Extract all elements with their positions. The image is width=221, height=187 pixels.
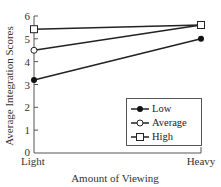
point-low-light: [31, 77, 37, 83]
legend-label-high: High: [152, 130, 173, 144]
point-low-heavy: [198, 36, 204, 42]
x-tick-heavy: Heavy: [187, 155, 216, 167]
open-circle-marker-icon: [131, 118, 149, 128]
y-tick-3: 3: [25, 79, 31, 91]
y-tick-4: 4: [25, 56, 31, 68]
chart-legend: Low Average High: [126, 98, 202, 146]
x-axis: Light Heavy: [21, 147, 216, 167]
y-tick-6: 6: [25, 10, 31, 22]
y-tick-1: 1: [25, 124, 31, 136]
y-tick-5: 5: [25, 33, 31, 45]
legend-item-low: Low: [131, 102, 197, 116]
legend-item-average: Average: [131, 116, 197, 130]
open-square-marker-icon: [131, 132, 149, 142]
legend-label-average: Average: [152, 116, 187, 130]
x-tick-light: Light: [21, 155, 45, 167]
y-axis-title: Average Integration Scores: [3, 26, 15, 146]
point-high-light: [31, 26, 38, 33]
legend-item-high: High: [131, 130, 197, 144]
filled-circle-marker-icon: [131, 104, 149, 114]
line-chart: 6 5 4 3 2 1 0 Light Heavy Amount of View…: [0, 0, 221, 187]
y-tick-2: 2: [25, 101, 31, 113]
point-high-heavy: [198, 22, 205, 29]
point-average-light: [31, 47, 37, 53]
series-high: [31, 22, 205, 33]
x-axis-title: Amount of Viewing: [71, 172, 159, 184]
legend-label-low: Low: [152, 102, 171, 116]
series-low: [31, 36, 204, 83]
